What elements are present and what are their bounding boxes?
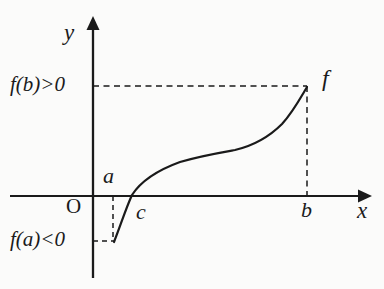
label-y-axis: y [64,21,74,44]
label-point-a: a [103,165,114,187]
label-f-of-b: f(b)>0 [10,74,65,95]
label-f-of-a: f(a)<0 [10,229,65,250]
function-graph-figure: f(b)>0 f(a)<0 y x O a c b f [0,0,384,289]
label-curve-f: f [322,66,329,90]
label-x-axis: x [357,199,367,222]
y-axis-arrowhead [87,16,100,30]
label-origin: O [66,196,81,217]
label-point-b: b [301,199,312,221]
label-point-c: c [136,201,146,223]
